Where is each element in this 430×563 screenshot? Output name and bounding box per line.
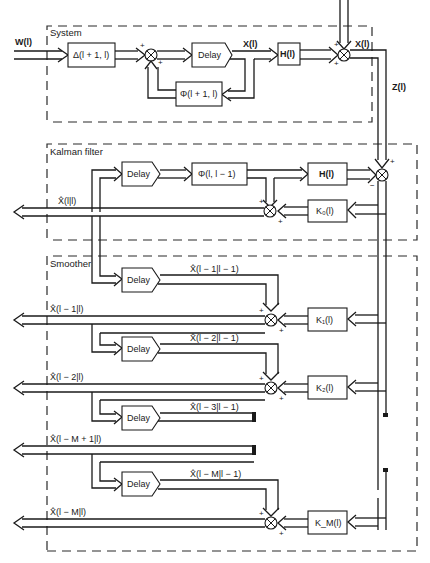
smoother-delay2-label: Delay: [127, 344, 151, 354]
measurement-z-label: Z(l): [392, 82, 406, 92]
estimate-l-l-output-arrow: [14, 205, 264, 219]
pred-l3-bus: [158, 412, 256, 422]
smootherm-sum-junction: [265, 517, 277, 529]
kf-update-sum-junction: [264, 205, 276, 217]
pred-l2-label: X̂(l − 2|l − 1): [190, 333, 239, 343]
delta-block-label: Δ(l + 1, l): [73, 50, 109, 60]
k2-to-sum-arrow: [278, 381, 308, 395]
prediction-bus: [247, 167, 308, 207]
estimate-l2-l-output-arrow: [14, 381, 265, 395]
noise-label: X(l): [355, 39, 370, 49]
km-to-sum-arrow: [278, 516, 308, 530]
noise-input-arrow: [337, 0, 351, 49]
sign-plus: +: [334, 59, 339, 68]
smoother-delay3-label: Delay: [127, 413, 151, 423]
k1-input-arrow: [348, 312, 386, 326]
pred-l1-label: X̂(l − 1|l − 1): [190, 264, 239, 274]
estimate-l-l-label: X̂(l|l): [58, 196, 76, 206]
sign-plus: +: [279, 326, 284, 335]
z-into-sum-arrowhead: [375, 159, 389, 168]
smoother2-sum-junction: [265, 382, 277, 394]
kf-delay-to-phi-arrow: [158, 167, 192, 181]
k0-input-arrow: [348, 202, 386, 218]
bus-break-pred3: [252, 412, 256, 422]
kf-phi-label: Φ(l, l − 1): [198, 169, 235, 179]
system-delay-label: Delay: [198, 50, 222, 60]
sign-plus: +: [140, 41, 145, 50]
sign-plus: +: [334, 40, 339, 49]
estimate-l1-l-output-arrow: [14, 313, 265, 327]
smoother-block-diagram: System Kalman filter Smoother W(l) Δ(l +…: [0, 0, 430, 563]
pred-lm-label: X̂(l − M|l − 1): [190, 469, 241, 479]
sign-plus: +: [279, 529, 284, 538]
kalman-boundary: [47, 144, 417, 240]
km-gain-label: K_M(l): [315, 518, 342, 528]
smoother-delay1-label: Delay: [127, 275, 151, 285]
kf-h-label: H(l): [319, 169, 334, 179]
estimate-lm-l-label: X̂(l − M|l): [50, 507, 86, 517]
system-phi-label: Φ(l + 1, l): [180, 89, 217, 99]
smoother-delay1-input-arrow: [92, 216, 122, 286]
bus-break-est-m1: [252, 445, 256, 455]
sign-plus: +: [259, 374, 264, 383]
k2-input-arrow: [348, 380, 386, 394]
h-to-sum-arrow: [300, 47, 338, 63]
kf-delay-label: Delay: [127, 169, 151, 179]
smoother-delay2-input-arrow: [92, 324, 265, 355]
system-section: System: [47, 26, 372, 122]
estimate-l2-l-label: X̂(l − 2|l): [50, 372, 84, 382]
k0-to-sum-arrow: [278, 204, 308, 218]
innovation-sum-junction: [376, 169, 388, 181]
kalman-filter-section: Kalman filter: [47, 144, 417, 240]
bus-break-top: [383, 413, 388, 417]
estimate-lm-l-output-arrow: [14, 516, 265, 530]
sign-minus: −: [370, 181, 375, 190]
smoother-label: Smoother: [50, 258, 91, 269]
kalman-label: Kalman filter: [50, 146, 103, 157]
smoother1-sum-junction: [265, 314, 277, 326]
state-x-label: X(l): [243, 39, 258, 49]
sign-plus: +: [259, 197, 264, 206]
sign-plus: +: [278, 217, 283, 226]
system-h-label: H(l): [280, 49, 295, 59]
k1-to-sum-arrow: [278, 313, 308, 327]
smoother-delaym-label: Delay: [127, 479, 151, 489]
smoother-delay3-input-arrow: [92, 392, 265, 424]
system-boundary: [47, 26, 372, 122]
input-w-label: W(l): [15, 37, 32, 47]
pred-l3-label: X̂(l − 3|l − 1): [190, 402, 239, 412]
km-input-arrow: [348, 515, 386, 529]
sign-plus: +: [259, 509, 264, 518]
delta-to-sum-arrow: [115, 48, 145, 62]
measurement-sum-junction: [338, 49, 350, 61]
estimate-l1-l-label: X̂(l − 1|l): [50, 304, 84, 314]
sign-plus: +: [259, 306, 264, 315]
k2-gain-label: K₂(l): [316, 383, 334, 393]
innovation-bus: [378, 181, 388, 530]
sign-plus: +: [390, 157, 395, 166]
kf-delay-input-arrow: [92, 167, 122, 212]
estimate-lm1-l-output-arrow: [14, 443, 256, 457]
k0-gain-label: K₀(l): [316, 206, 334, 216]
system-sum-junction: [145, 49, 157, 61]
bus-break-bottom: [383, 468, 388, 472]
system-label: System: [50, 27, 82, 38]
input-w-arrow: [14, 48, 68, 62]
k1-gain-label: K₁(l): [316, 315, 333, 325]
sign-plus: +: [279, 394, 284, 403]
estimate-lm1-l-label: X̂(l − M + 1|l): [50, 434, 101, 444]
